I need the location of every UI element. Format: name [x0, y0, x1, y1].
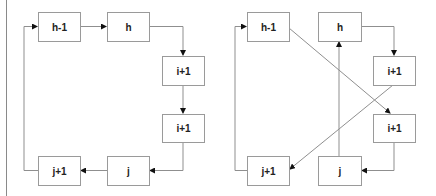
- node-left-i-plus-1-upper: i+1: [163, 57, 205, 86]
- node-left-j: j: [108, 157, 150, 186]
- node-label: j: [338, 166, 342, 177]
- edge-left-i1b-to-j: [150, 142, 183, 171]
- edge-left-h-to-i1a: [149, 27, 183, 56]
- node-left-j-plus-1: j+1: [39, 157, 81, 186]
- node-label: j+1: [260, 166, 276, 177]
- node-label: i+1: [387, 123, 402, 134]
- node-left-i-plus-1-lower: i+1: [163, 115, 205, 143]
- edge-right-i1b-to-j: [362, 142, 394, 171]
- node-label: h: [125, 22, 131, 33]
- edge-right-j1-to-h-1: [235, 27, 247, 171]
- node-label: i+1: [387, 66, 402, 77]
- node-label: j+1: [51, 166, 67, 177]
- node-right-i-plus-1-lower: i+1: [374, 115, 416, 143]
- node-right-h: h: [319, 13, 362, 42]
- left-panel: h-1 h i+1 i+1 j j+1: [24, 13, 205, 186]
- node-label: i+1: [176, 123, 191, 134]
- node-right-j-plus-1: j+1: [248, 157, 290, 186]
- node-label: i+1: [176, 66, 191, 77]
- edge-right-h-to-i1a: [361, 27, 394, 56]
- node-left-h-minus-1: h-1: [39, 13, 81, 42]
- node-label: h-1: [52, 22, 67, 33]
- node-right-h-minus-1: h-1: [248, 13, 290, 42]
- node-right-i-plus-1-upper: i+1: [374, 57, 416, 86]
- diagram-canvas: h-1 h i+1 i+1 j j+1: [0, 0, 436, 196]
- node-label: h-1: [261, 22, 276, 33]
- right-panel: h-1 h i+1 i+1 j j+1: [235, 13, 416, 186]
- node-right-j: j: [319, 157, 362, 186]
- edge-left-j1-to-h-1: [24, 27, 38, 171]
- node-label: j: [126, 166, 130, 177]
- node-left-h: h: [108, 13, 150, 42]
- node-label: h: [337, 22, 343, 33]
